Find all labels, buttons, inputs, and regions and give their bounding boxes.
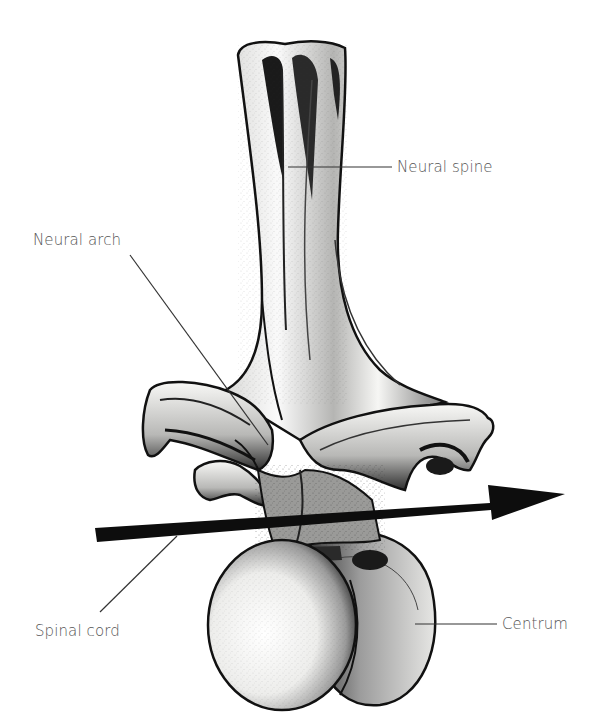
centrum-front	[208, 540, 357, 710]
neural-spine	[222, 41, 445, 440]
label-neural-arch: Neural arch	[33, 231, 121, 249]
neural-canal-region	[255, 465, 385, 550]
leader-spinal-cord	[100, 536, 177, 612]
label-centrum: Centrum	[502, 615, 568, 633]
label-spinal-cord: Spinal cord	[35, 622, 120, 640]
label-neural-spine: Neural spine	[397, 158, 493, 176]
